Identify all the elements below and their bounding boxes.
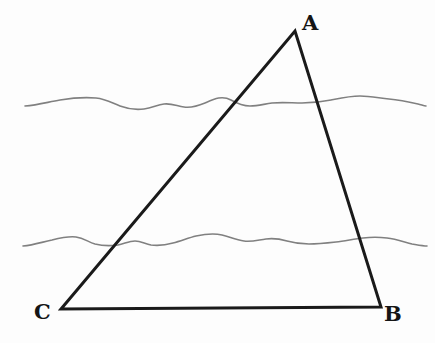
vertex-label-c: C	[34, 301, 51, 322]
vertex-label-b: B	[384, 303, 402, 324]
vertex-label-a: A	[302, 12, 318, 33]
figure-svg	[0, 0, 435, 343]
geometry-figure-canvas: A B C	[0, 0, 435, 343]
lower-wavy-line	[23, 234, 427, 246]
triangle-abc-outline	[61, 31, 381, 309]
upper-wavy-line	[25, 96, 426, 109]
